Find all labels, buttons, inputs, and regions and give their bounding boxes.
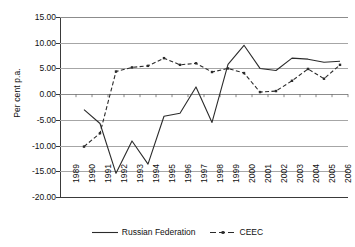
x-axis-tick-label: 1993 [136,164,145,183]
y-axis-tick-mark [56,68,60,69]
x-axis-tick-label: 1992 [120,164,129,183]
y-axis-tick-label: 10.00 [8,39,56,48]
data-point-marker [179,64,181,66]
y-axis-tick-mark [56,94,60,95]
y-axis-tick-mark [56,171,60,172]
data-point-marker [259,91,261,93]
y-axis-tick-mark [56,146,60,147]
data-point-marker [131,66,133,68]
legend-entry[interactable]: CEEC [210,228,264,237]
y-axis-tick-label: 5.00 [8,64,56,73]
x-axis-tick-label: 1998 [216,164,225,183]
x-axis-tick-label: 2005 [328,164,337,183]
y-axis-tick-label: -10.00 [8,142,56,151]
x-axis-tick-label: 2003 [296,164,305,183]
y-axis-tick-label: 15.00 [8,13,56,22]
y-axis-tick-label: -5.00 [8,116,56,125]
gridline [60,197,348,198]
data-point-marker [83,145,85,147]
legend-label: CEEC [240,228,264,237]
y-axis-tick-mark [56,120,60,121]
data-point-marker [227,67,229,69]
legend-entry[interactable]: Russian Federation [92,228,196,237]
y-axis-tick-label: -15.00 [8,167,56,176]
series-line [84,45,340,173]
x-axis-tick-label: 1999 [232,164,241,183]
data-point-marker [195,62,197,64]
x-axis-tick-label: 1996 [184,164,193,183]
data-point-marker [163,57,165,59]
legend-swatch-icon [210,228,236,237]
data-point-marker [243,72,245,74]
x-axis-tick-label: 2000 [248,164,257,183]
data-point-marker [99,132,101,134]
x-axis-tick-label: 1989 [72,164,81,183]
y-axis-tick-label: -20.00 [8,193,56,202]
legend-swatch-icon [92,228,118,237]
x-axis-tick-label: 1995 [168,164,177,183]
legend-label: Russian Federation [122,228,196,237]
line-chart: Per cent p.a. 15.0010.005.000.00-5.00-10… [0,0,355,247]
data-point-marker [115,70,117,72]
data-point-marker [323,78,325,80]
x-axis-tick-label: 2004 [312,164,321,183]
x-axis-tick-label: 1997 [200,164,209,183]
y-axis-tick-mark [56,43,60,44]
chart-legend: Russian FederationCEEC [0,228,355,237]
x-axis-tick-label: 2006 [344,164,353,183]
x-axis-tick-label: 1991 [104,164,113,183]
data-point-marker [307,68,309,70]
y-axis-tick-mark [56,17,60,18]
data-point-marker [291,80,293,82]
x-axis-tick-label: 2002 [280,164,289,183]
y-axis-tick-mark [56,197,60,198]
x-axis-tick-label: 1990 [88,164,97,183]
x-axis-tick-label: 2001 [264,164,273,183]
x-axis-tick-label: 1994 [152,164,161,183]
data-point-marker [339,64,341,66]
y-axis-tick-label: 0.00 [8,90,56,99]
data-point-marker [147,65,149,67]
data-point-marker [275,90,277,92]
data-point-marker [211,71,213,73]
